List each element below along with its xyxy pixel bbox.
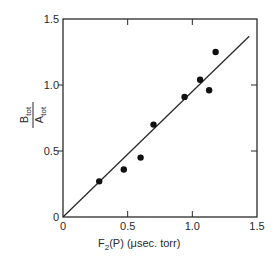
- x-tick-label: 0.5: [120, 220, 135, 232]
- axis-ticks: [58, 19, 257, 217]
- data-point: [206, 87, 212, 93]
- data-point: [121, 166, 127, 172]
- fit-line-path: [63, 36, 249, 217]
- data-point: [137, 154, 143, 160]
- data-point: [96, 178, 102, 184]
- plot-border: [63, 19, 257, 217]
- x-tick-labels: 00.51.01.5: [60, 220, 265, 232]
- data-point: [197, 77, 203, 83]
- plot-frame: [63, 19, 257, 217]
- x-tick-label: 0: [60, 220, 66, 232]
- data-points: [96, 49, 219, 185]
- scatter-chart: 00.51.01.5 00.51.01.5 F2(P) (μsec. torr)…: [0, 0, 276, 257]
- data-point: [181, 94, 187, 100]
- y-tick-label: 1.0: [44, 79, 59, 91]
- x-axis-title: F2(P) (μsec. torr): [98, 237, 180, 252]
- y-tick-labels: 00.51.01.5: [44, 13, 59, 223]
- y-tick-label: 1.5: [44, 13, 59, 25]
- y-tick-label: 0: [53, 211, 59, 223]
- data-point: [150, 121, 156, 127]
- fit-line: [63, 36, 249, 217]
- data-point: [212, 49, 218, 55]
- y-axis-title: Btot Atot: [18, 102, 48, 128]
- y-tick-label: 0.5: [44, 145, 59, 157]
- x-tick-label: 1.0: [185, 220, 200, 232]
- svg-text:Atot: Atot: [33, 106, 48, 123]
- svg-text:Btot: Btot: [18, 106, 33, 123]
- x-tick-label: 1.5: [249, 220, 264, 232]
